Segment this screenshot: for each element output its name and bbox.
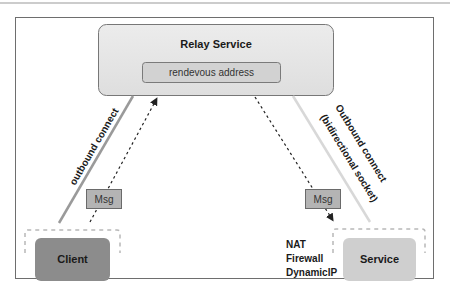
constraint-dynamic-ip: DynamicIP — [286, 267, 337, 278]
constraint-firewall: Firewall — [286, 253, 323, 264]
service-label: Service — [360, 253, 399, 265]
rendezvous-address-box: rendevous address — [143, 63, 281, 83]
relay-service-title: Relay Service — [180, 38, 252, 50]
service-msg-box: Msg — [306, 190, 341, 209]
relay-diagram: Relay Service rendevous address outbound… — [0, 0, 450, 302]
client-msg-box: Msg — [87, 190, 122, 209]
relay-service-box: Relay Service rendevous address — [99, 25, 334, 96]
client-msg-label: Msg — [95, 194, 114, 205]
client-label: Client — [57, 253, 88, 265]
constraint-nat: NAT — [286, 239, 306, 250]
rendezvous-address-label: rendevous address — [169, 67, 254, 78]
service-msg-label: Msg — [314, 194, 333, 205]
